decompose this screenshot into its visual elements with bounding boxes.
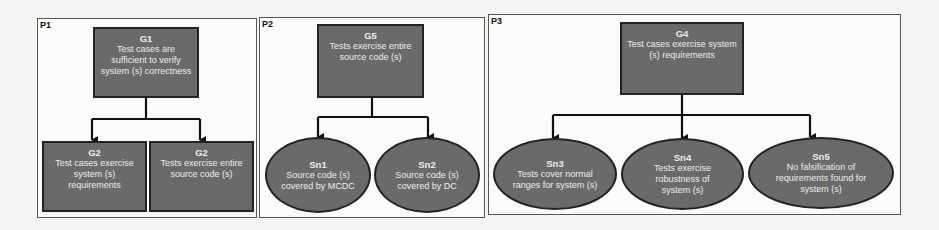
solution-node-sn4: Sn4 Tests exercise robustness of system … <box>621 138 744 210</box>
solution-node-sn1: Sn1 Source code (s) covered by MCDC <box>265 137 371 213</box>
node-id: G2 <box>195 147 208 158</box>
goal-node-g2-requirements: G2 Test cases exercise system (s) requir… <box>42 141 147 212</box>
node-text: Test cases exercise system (s) requireme… <box>44 158 145 191</box>
goal-node-g5: G5 Tests exercise entire source code (s) <box>317 24 424 98</box>
node-id: Sn5 <box>812 151 829 162</box>
node-text: Tests exercise entire source code (s) <box>151 158 252 180</box>
node-id: Sn2 <box>418 159 435 170</box>
node-text: Test cases exercise system (s) requireme… <box>622 39 742 61</box>
node-id: G5 <box>364 30 377 41</box>
solution-node-sn2: Sn2 Source code (s) covered by DC <box>374 137 480 213</box>
goal-node-g4: G4 Test cases exercise system (s) requir… <box>620 22 744 95</box>
node-text: Tests cover normal ranges for system (s) <box>495 169 615 191</box>
node-id: G1 <box>140 33 153 44</box>
node-text: Tests exercise entire source code (s) <box>319 41 422 63</box>
node-text: No falsification of requirements found f… <box>750 162 892 195</box>
goal-node-g2-source-code: G2 Tests exercise entire source code (s) <box>149 141 254 212</box>
node-id: G4 <box>676 28 689 39</box>
solution-node-sn3: Sn3 Tests cover normal ranges for system… <box>493 138 617 210</box>
node-id: Sn4 <box>674 152 691 163</box>
node-text: Tests exercise robustness of system (s) <box>623 163 742 196</box>
solution-node-sn5: Sn5 No falsification of requirements fou… <box>748 137 894 209</box>
goal-node-g1: G1 Test cases are sufficient to verify s… <box>93 27 199 98</box>
panel-label: P2 <box>262 19 273 29</box>
node-text: Source code (s) covered by DC <box>376 170 478 192</box>
node-id: Sn3 <box>546 158 563 169</box>
panel-label: P1 <box>40 20 51 30</box>
node-id: G2 <box>88 147 101 158</box>
node-text: Test cases are sufficient to verify syst… <box>95 44 197 77</box>
node-text: Source code (s) covered by MCDC <box>267 170 369 192</box>
node-id: Sn1 <box>309 159 326 170</box>
panel-label: P3 <box>491 16 502 26</box>
